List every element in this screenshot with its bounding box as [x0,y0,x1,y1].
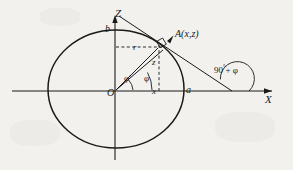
abscissa-label-x: x [152,87,156,96]
semi-major-label-a: a [186,85,191,95]
angle-label-tangent: 90°+ φ [214,64,238,75]
tangent-angle-remainder: + φ [225,65,238,75]
origin-label: O [107,88,114,98]
radius-label-r: r [133,43,137,52]
geometry-diagram [0,0,293,170]
axis-label-z: Z [115,8,121,19]
axis-label-x: X [265,94,272,105]
ellipse-curve [48,30,184,148]
x-axis [12,88,272,94]
semi-minor-label-b: b [105,24,110,34]
point-a-marker [167,36,174,44]
figure-canvas: Z X O b a x z r A(x,z) φ φ′ 90°+ φ [0,0,293,170]
angle-label-phi: φ [144,74,149,83]
angle-label-phi-prime: φ′ [124,74,131,83]
ordinate-label-z: z [152,58,156,67]
tangent-angle-number: 90 [214,65,223,75]
point-label-a-text: A(x,z) [175,28,199,39]
radius-vector-line [116,50,163,90]
point-label-a: A(x,z) [175,29,199,39]
